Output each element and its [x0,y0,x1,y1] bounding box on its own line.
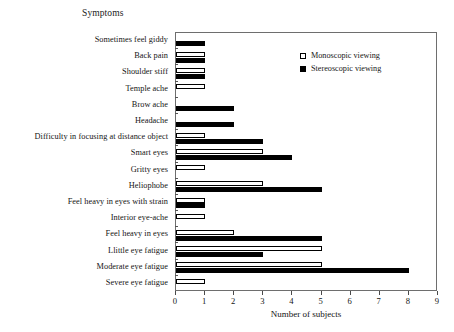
y-axis-label: Feel heavy in eyes [106,229,168,239]
y-axis-label: Smart eyes [131,148,168,158]
bar-monoscopic [176,214,205,219]
legend-label: Monoscopic viewing [311,51,380,60]
bar-stereoscopic [176,139,263,144]
bar-stereoscopic [176,268,409,273]
bar-monoscopic [176,181,263,186]
y-axis-category-labels: Sometimes feel giddyBack painShoulder st… [0,32,172,291]
x-axis-tick-label: 5 [318,296,322,306]
bar-stereoscopic [176,74,205,79]
bar-stereoscopic [176,236,322,241]
legend-item: Stereoscopic viewing [300,62,381,75]
bar-monoscopic [176,246,322,251]
y-axis-label: Temple ache [125,84,168,94]
y-axis-label: Headache [135,116,168,126]
y-axis-tick [175,226,178,227]
x-axis-tick [204,291,205,295]
x-axis-tick-label: 4 [289,296,293,306]
x-axis-tick-label: 3 [260,296,264,306]
caption-fragment [26,322,430,328]
y-axis-label: Back pain [134,51,168,61]
bar-stereoscopic [176,187,322,192]
x-axis-tick-label: 1 [202,296,206,306]
x-axis-tick-label: 2 [231,296,235,306]
y-axis-tick [175,145,178,146]
x-axis-tick-label: 7 [377,296,381,306]
bar-monoscopic [176,68,205,73]
y-axis-label: Llittle eye fatigue [108,246,168,256]
bar-monoscopic [176,52,205,57]
y-axis-label: Heliophobe [129,181,168,191]
y-axis-tick [175,178,178,179]
y-axis-tick [175,81,178,82]
x-axis-tick-label: 6 [348,296,352,306]
bar-stereoscopic [176,155,292,160]
y-axis-label: Shoulder stiff [122,67,168,77]
legend-swatch-stereo-icon [300,66,306,72]
x-axis-tick [291,291,292,295]
x-axis-tick [262,291,263,295]
bar-monoscopic [176,279,205,284]
x-axis-tick-label: 9 [435,296,439,306]
x-axis-tick [233,291,234,295]
y-axis-tick [175,259,178,260]
x-axis-tick-label: 0 [173,296,177,306]
bar-monoscopic [176,262,322,267]
legend-label: Stereoscopic viewing [311,64,381,73]
figure-root: Symptoms Sometimes feel giddyBack painSh… [0,0,454,332]
bar-stereoscopic [176,203,205,208]
y-axis-label: Interior eye-ache [111,213,168,223]
y-axis-label: Brow ache [132,100,168,110]
bar-monoscopic [176,198,205,203]
bar-monoscopic [176,133,205,138]
x-axis-tick [175,291,176,295]
x-axis-title: Number of subjects [175,309,437,319]
y-axis-tick [175,48,178,49]
legend-item: Monoscopic viewing [300,49,381,62]
bar-stereoscopic [176,252,263,257]
bar-monoscopic [176,230,234,235]
y-axis-label: Moderate eye fatigue [97,262,169,272]
bar-stereoscopic [176,41,205,46]
bar-stereoscopic [176,58,205,63]
x-axis-tick-label: 8 [406,296,410,306]
y-axis-label: Feel heavy in eyes with strain [68,197,168,207]
legend: Monoscopic viewingStereoscopic viewing [300,49,381,75]
x-axis-tick [437,291,438,295]
y-axis-tick [175,97,178,98]
y-axis-tick [175,113,178,114]
y-axis-label: Severe eye fatigue [106,278,168,288]
bar-monoscopic [176,149,263,154]
bar-stereoscopic [176,122,234,127]
y-axis-tick [175,129,178,130]
y-axis-tick [175,194,178,195]
bar-monoscopic [176,84,205,89]
y-axis-tick [175,275,178,276]
x-axis-tick [379,291,380,295]
y-axis-tick [175,162,178,163]
y-axis-tick [175,64,178,65]
y-axis-tick [175,210,178,211]
bar-stereoscopic [176,106,234,111]
legend-swatch-mono-icon [300,53,306,59]
y-axis-label: Sometimes feel giddy [95,35,168,45]
x-axis-tick [321,291,322,295]
bar-monoscopic [176,165,205,170]
y-axis-label: Gritty eyes [131,165,168,175]
x-axis-tick [350,291,351,295]
y-axis-tick [175,242,178,243]
x-axis-tick [408,291,409,295]
page-title: Symptoms [82,8,123,18]
y-axis-label: Difficulty in focusing at distance objec… [35,132,168,142]
